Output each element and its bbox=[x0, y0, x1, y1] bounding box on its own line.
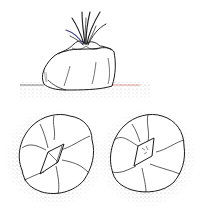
botanical-illustration bbox=[0, 0, 200, 210]
plant-body bbox=[42, 48, 115, 90]
illustration-canvas bbox=[0, 0, 200, 210]
top-view-left bbox=[4, 108, 104, 208]
top-view-right bbox=[97, 108, 197, 208]
side-view bbox=[20, 12, 150, 104]
leaf-tuft bbox=[66, 12, 106, 45]
